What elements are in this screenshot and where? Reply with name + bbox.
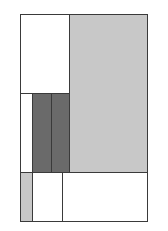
- cell-bottom-right-white: [62, 172, 148, 222]
- cell-dark-bar-2: [51, 93, 70, 173]
- cell-bottom-mid-white: [32, 172, 63, 222]
- cell-top-left-white: [20, 14, 70, 94]
- cell-dark-bar-1: [32, 93, 52, 173]
- cell-right-light-gray: [69, 14, 148, 173]
